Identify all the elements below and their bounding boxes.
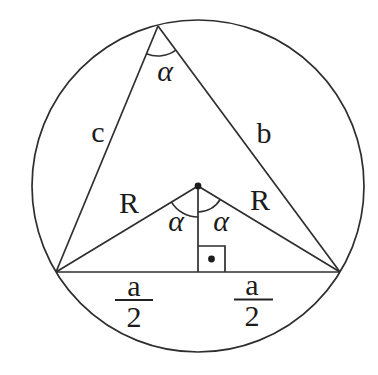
central-angle-right-label: α	[213, 204, 230, 237]
side-c-label: c	[91, 115, 104, 148]
circle-center-point	[195, 183, 202, 190]
half-base-left-denominator: 2	[127, 300, 142, 333]
radius-left-label: R	[119, 186, 139, 219]
right-angle-dot	[208, 256, 215, 263]
inscribed-angle-label: α	[157, 54, 174, 87]
central-angle-left-label: α	[168, 204, 185, 237]
half-base-right-denominator: 2	[245, 299, 260, 332]
half-base-left-numerator: a	[127, 269, 140, 302]
side-b-label: b	[257, 116, 272, 149]
radius-right-label: R	[250, 183, 270, 216]
side-b-line	[158, 26, 340, 272]
half-base-right-numerator: a	[245, 268, 258, 301]
side-c-line	[56, 26, 158, 272]
diagram-svg: α c b R R α α a 2 a 2	[0, 0, 378, 375]
geometry-diagram: α c b R R α α a 2 a 2	[0, 0, 378, 375]
